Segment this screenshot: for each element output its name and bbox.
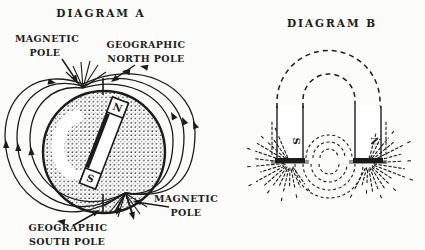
diagram-b-title: DIAGRAM B (287, 17, 377, 29)
horseshoe-south-label: S (291, 137, 302, 144)
diagram-a: DIAGRAM A (3, 7, 218, 247)
outer-arch (277, 51, 380, 108)
label-magnetic-pole-top-1: MAGNETIC (15, 33, 79, 44)
inner-arch (303, 74, 355, 108)
label-geographic-north-2: NORTH POLE (107, 53, 184, 64)
diagram-a-title: DIAGRAM A (56, 7, 145, 19)
label-geographic-south-2: SOUTH POLE (29, 236, 105, 247)
horseshoe-magnet: S N (271, 51, 387, 165)
label-magnetic-pole-bottom-1: MAGNETIC (154, 193, 218, 204)
figure-canvas: DIAGRAM A (0, 0, 425, 250)
diagram-b: DIAGRAM B S N (247, 17, 413, 201)
label-magnetic-pole-top-2: POLE (30, 47, 61, 58)
label-geographic-north-1: GEOGRAPHIC (106, 39, 185, 50)
magnetism-figure: DIAGRAM A (0, 0, 425, 250)
horseshoe-north-label: N (369, 136, 380, 145)
label-magnetic-pole-bottom-2: POLE (171, 207, 202, 218)
label-geographic-south-1: GEOGRAPHIC (28, 222, 107, 233)
